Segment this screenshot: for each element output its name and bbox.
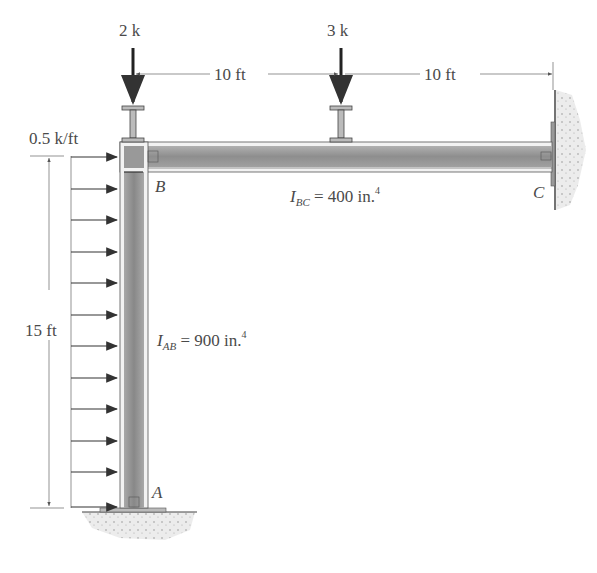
exponent: 4	[375, 185, 380, 196]
dimension-label-span-2: 10 ft	[424, 66, 456, 83]
distributed-load-label: 0.5 k/ft	[29, 130, 78, 147]
load-label-3k: 3 k	[327, 22, 348, 39]
distributed-load-arrows	[71, 157, 117, 507]
value: = 400 in.	[314, 187, 375, 206]
value: = 900 in.	[180, 331, 241, 350]
frame-diagram	[0, 0, 597, 573]
i-section-icon-1	[122, 106, 144, 142]
column-ab	[120, 142, 158, 508]
beam-bc	[120, 142, 552, 172]
fixed-support-c	[551, 90, 586, 210]
joint-label-c: C	[533, 184, 544, 201]
exponent: 4	[241, 329, 246, 340]
dimension-label-span-1: 10 ft	[214, 66, 246, 83]
moment-of-inertia-bc: IBC = 400 in.4	[290, 186, 380, 208]
fixed-support-a	[82, 508, 197, 540]
dimension-label-height: 15 ft	[25, 322, 57, 339]
joint-label-b: B	[155, 178, 165, 195]
moment-of-inertia-ab: IAB = 900 in.4	[157, 330, 246, 352]
joint-label-a: A	[152, 484, 162, 501]
load-label-2k: 2 k	[119, 22, 140, 39]
dimension-horizontal	[136, 62, 553, 90]
i-section-icon-2	[330, 106, 352, 142]
subscript: BC	[296, 196, 310, 208]
subscript: AB	[163, 340, 176, 352]
